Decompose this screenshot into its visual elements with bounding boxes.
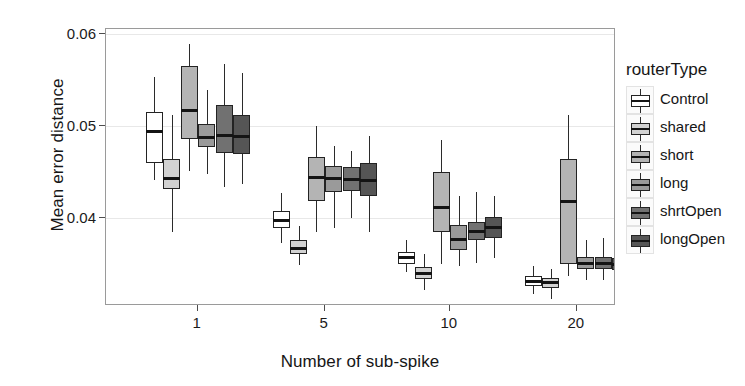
plot-panel [105,28,615,305]
boxplot-median [577,262,594,265]
x-tick-label: 1 [167,314,227,331]
x-tick-mark [576,305,577,311]
boxplot-figure: Mean error distance Number of sub-spike … [0,0,745,386]
legend-label: shared [660,118,706,135]
legend-swatch-icon [626,226,654,254]
boxplot-median [542,281,559,284]
legend-label: shrtOpen [660,202,722,219]
boxplot-median [163,177,180,180]
x-axis-title: Number of sub-spike [105,352,615,372]
x-tick-label: 20 [546,314,606,331]
boxplot-median [290,247,307,250]
boxplot-median [308,176,325,179]
boxplot-median [560,200,577,203]
boxplot-median [198,136,215,139]
gridline [106,218,614,219]
legend-median-icon [631,184,650,186]
gridline [106,34,614,35]
legend-swatch-icon [626,170,654,198]
boxplot-box [216,105,233,153]
boxplot-median [216,134,233,137]
boxplot-box [433,172,450,232]
legend-swatch-icon [626,142,654,170]
legend-median-icon [631,212,650,214]
boxplot-median [233,135,250,138]
y-tick-label: 0.06 [44,24,96,41]
x-tick-label: 5 [294,314,354,331]
boxplot-box [560,159,577,264]
boxplot-median [612,263,615,266]
boxplot-median [273,219,290,222]
boxplot-box [163,159,180,189]
legend-label: long [660,174,688,191]
boxplot-median [450,238,467,241]
x-tick-mark [197,305,198,311]
legend-label: short [660,146,693,163]
boxplot-median [398,256,415,259]
boxplot-median [485,226,502,229]
y-tick-label: 0.04 [44,209,96,226]
boxplot-median [325,177,342,180]
legend-median-icon [631,156,650,158]
legend-label: longOpen [660,230,725,247]
boxplot-median [468,230,485,233]
legend-swatch-icon [626,86,654,114]
boxplot-box [146,112,163,163]
legend-swatch-icon [626,198,654,226]
x-tick-mark [324,305,325,311]
legend-median-icon [631,100,650,102]
legend-swatch-icon [626,114,654,142]
x-tick-label: 10 [419,314,479,331]
y-tick-label: 0.05 [44,116,96,133]
legend-label: Control [660,90,708,107]
boxplot-median [433,206,450,209]
legend-median-icon [631,128,650,130]
boxplot-median [146,130,163,133]
boxplot-median [360,179,377,182]
x-tick-mark [449,305,450,311]
boxplot-median [595,262,612,265]
boxplot-median [181,109,198,112]
y-axis-title: Mean error distance [48,5,68,305]
legend-title: routerType [626,60,707,80]
boxplot-median [525,280,542,283]
legend-median-icon [631,240,650,242]
boxplot-median [415,272,432,275]
boxplot-median [343,178,360,181]
boxplot-box [181,66,198,139]
